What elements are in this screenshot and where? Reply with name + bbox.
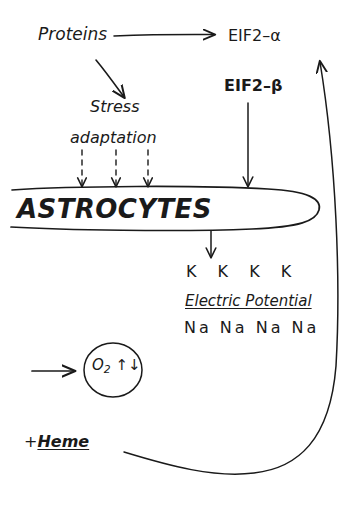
oxygen-subscript: 2 bbox=[104, 363, 111, 376]
edge-proteins-to-stress bbox=[96, 60, 124, 97]
diagram-canvas bbox=[0, 0, 351, 506]
node-eif2-beta: EIF2–β bbox=[224, 78, 282, 94]
heme-plus-sign: + bbox=[24, 432, 37, 451]
node-proteins: Proteins bbox=[38, 26, 107, 43]
node-eif2-alpha: EIF2–α bbox=[228, 28, 281, 44]
ion-row-potassium: K K K K bbox=[186, 264, 299, 280]
node-oxygen: O2 ↑↓ bbox=[92, 358, 141, 375]
node-heme: +Heme bbox=[24, 434, 89, 450]
node-adaptation: adaptation bbox=[70, 130, 157, 146]
label-electric-potential: Electric Potential bbox=[185, 294, 312, 309]
node-astrocytes: ASTROCYTES bbox=[17, 196, 212, 222]
node-stress: Stress bbox=[90, 99, 140, 115]
edge-proteins-to-eif2alpha bbox=[114, 35, 214, 36]
ion-row-sodium: Na Na Na Na bbox=[184, 320, 319, 336]
oxygen-flux-arrows: ↑↓ bbox=[115, 356, 140, 374]
oxygen-symbol: O bbox=[92, 356, 104, 374]
heme-label: Heme bbox=[37, 432, 89, 451]
pathway-diagram: Proteins EIF2–α EIF2–β Stress adaptation… bbox=[0, 0, 351, 506]
